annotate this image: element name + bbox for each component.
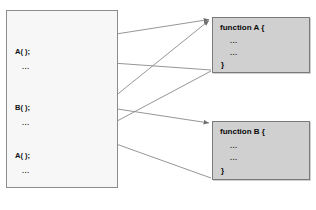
function-b-body-line-2: ... xyxy=(230,154,237,162)
function-b-title: function B { xyxy=(220,127,265,137)
code-line-call-a-1: A( ); xyxy=(15,47,30,56)
code-line-call-a-2: A( ); xyxy=(15,151,30,160)
code-line-ellipsis-3: ... xyxy=(22,166,29,175)
function-a-closing-brace: } xyxy=(221,60,224,69)
code-line-call-b: B( ); xyxy=(15,103,30,112)
function-a-body-line-1: ... xyxy=(230,37,237,45)
code-line-ellipsis-1: ... xyxy=(22,62,29,71)
function-b-box: function B { ... ... } xyxy=(212,121,310,180)
function-b-closing-brace: } xyxy=(221,166,224,175)
code-line-ellipsis-2: ... xyxy=(22,118,29,127)
function-b-body-line-1: ... xyxy=(230,142,237,150)
function-a-box: function A { ... ... } xyxy=(212,17,310,73)
function-a-title: function A { xyxy=(220,23,264,33)
caller-code-panel: A( ); ... B( ); ... A( ); ... xyxy=(6,10,118,188)
function-a-body-line-2: ... xyxy=(230,49,237,57)
